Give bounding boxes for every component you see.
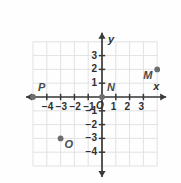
x-axis-tick-label: −2: [69, 102, 80, 112]
y-axis-tick-label: 3: [91, 51, 97, 61]
coordinate-plane-figure: −4−3−2−1123321−1−2−3−4xyOPNMO: [0, 0, 181, 183]
y-axis-tick-label: −2: [86, 120, 97, 130]
y-axis-label: y: [108, 34, 114, 45]
data-point: [30, 94, 36, 100]
point-label: P: [38, 82, 45, 93]
x-axis-tick-label: 2: [125, 102, 131, 112]
data-point: [58, 136, 64, 142]
x-axis-label: x: [153, 81, 159, 92]
y-axis-tick-label: −4: [86, 147, 97, 157]
y-axis-tick-label: 1: [91, 78, 97, 88]
y-axis-tick-label: 2: [91, 64, 97, 74]
point-label: M: [143, 70, 152, 81]
x-axis-tick-label: 1: [111, 102, 117, 112]
data-point: [154, 67, 160, 73]
y-axis-tick-label: −3: [86, 133, 97, 143]
x-axis-tick-label: 3: [138, 102, 144, 112]
origin-label: O: [96, 101, 104, 111]
point-label: N: [107, 82, 115, 93]
x-axis-tick-label: −3: [56, 102, 67, 112]
point-label: O: [65, 139, 74, 150]
x-axis-tick-label: −4: [42, 102, 53, 112]
